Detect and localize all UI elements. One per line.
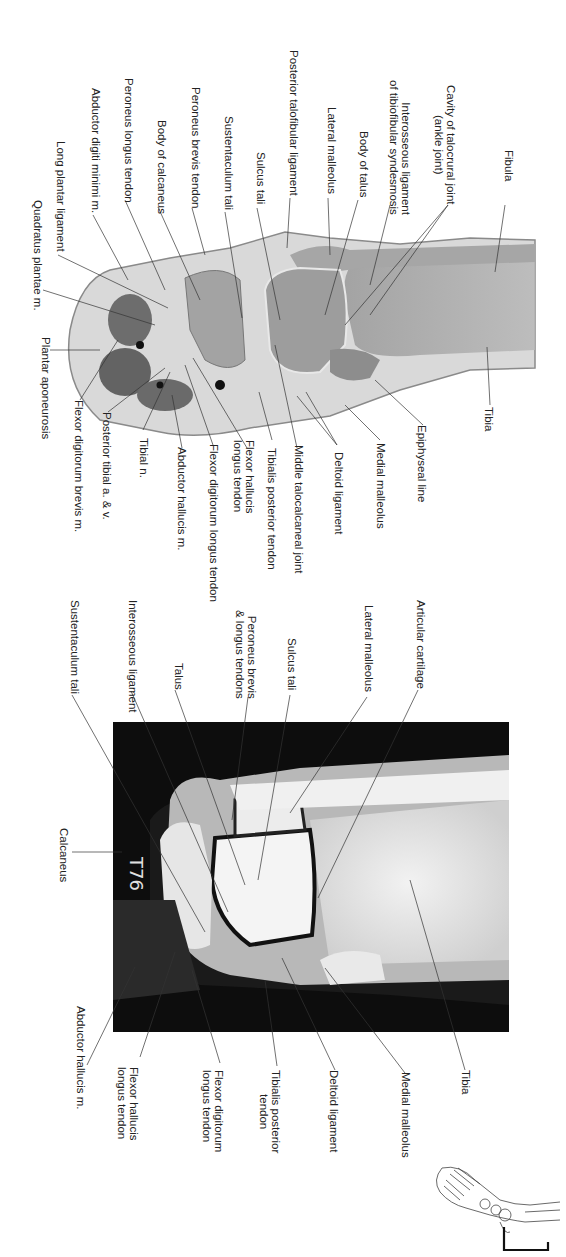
label-flexor-digitorum-brevis: Flexor digitorum brevis m. bbox=[73, 400, 85, 532]
label-lateral-malleolus-cadaver: Lateral malleolus bbox=[326, 107, 338, 194]
label-interosseous-ligament-mri: Interosseous ligament bbox=[127, 600, 139, 713]
label-deltoid-ligament-mri: Deltoid ligament bbox=[328, 1070, 340, 1152]
label-lateral-malleolus-mri: Lateral malleolus bbox=[363, 605, 375, 692]
label-flexor-hallucis-longus-mri: Flexor hallucis longus tendon bbox=[116, 1067, 140, 1141]
label-long-plantar-ligament: Long plantar ligament bbox=[55, 141, 67, 252]
label-medial-malleolus-cadaver: Medial malleolus bbox=[375, 443, 387, 529]
label-tibialis-posterior-cadaver: Tibialis posterior tendon bbox=[266, 448, 278, 570]
label-abductor-digiti-minimi: Abductor digiti minimi m. bbox=[90, 88, 102, 213]
label-abductor-hallucis-cadaver: Abductor hallucis m. bbox=[176, 447, 188, 551]
label-talus: Talus bbox=[173, 663, 185, 690]
label-cavity-of-talocrural-joint: Cavity of talocrural joint (ankle joint) bbox=[433, 85, 457, 205]
label-deltoid-ligament-cadaver: Deltoid ligament bbox=[333, 452, 345, 534]
label-tibia-cadaver: Tibia bbox=[483, 407, 495, 432]
label-peroneus-longus-tendon: Peroneus longus tendon bbox=[123, 78, 135, 203]
label-abductor-hallucis-mri: Abductor hallucis m. bbox=[75, 1006, 87, 1110]
label-body-of-calcaneus: Body of calcaneus bbox=[156, 120, 168, 214]
label-tibialis-posterior-mri: Tibialis posterior tendon bbox=[258, 1070, 282, 1153]
label-medial-malleolus-mri: Medial malleolus bbox=[400, 1072, 412, 1158]
label-flexor-digitorum-longus-mri: Flexor digitorum longus tendon bbox=[201, 1070, 225, 1152]
label-quadratus-plantae: Quadratus plantae m. bbox=[32, 200, 44, 311]
label-sulcus-tali-mri: Sulcus tali bbox=[286, 638, 298, 690]
label-tibia-mri: Tibia bbox=[460, 1070, 472, 1095]
label-posterior-talofibular-ligament: Posterior talofibular ligament bbox=[288, 50, 300, 196]
label-epiphyseal-line: Epiphyseal line bbox=[416, 425, 428, 502]
label-flexor-digitorum-longus-cadaver: Flexor digitorum longus tendon bbox=[208, 444, 220, 602]
label-sulcus-tali-cadaver: Sulcus tali bbox=[255, 152, 267, 204]
label-plantar-aponeurosis: Plantar aponeurosis bbox=[40, 337, 52, 439]
label-peroneus-brevis-tendon: Peroneus brevis tendon bbox=[190, 87, 202, 208]
label-peroneus-brevis-longus-tendons: Peroneus brevis & longus tendons bbox=[234, 610, 258, 699]
label-sustentaculum-tali-mri: Sustentaculum tali bbox=[69, 600, 81, 694]
label-fibula: Fibula bbox=[503, 150, 515, 181]
cadaver-section-image bbox=[69, 232, 535, 435]
label-calcaneus: Calcaneus bbox=[58, 828, 70, 882]
label-body-of-talus: Body of talus bbox=[358, 131, 370, 197]
svg-text:T76: T76 bbox=[126, 856, 147, 891]
mri-section-image: T76 bbox=[113, 722, 509, 1032]
label-flexor-hallucis-longus-cadaver: Flexor hallucis longus tendon bbox=[232, 440, 256, 514]
label-middle-talocalcaneal-joint: Middle talocalcaneal joint bbox=[293, 445, 305, 574]
label-tibial-nerve: Tibial n. bbox=[138, 438, 150, 478]
label-posterior-tibial-av: Posterior tibial a. & v. bbox=[101, 412, 113, 520]
foot-skeleton-icon bbox=[430, 1160, 560, 1255]
label-sustentaculum-tali-cadaver: Sustentaculum tali bbox=[223, 116, 235, 210]
label-articular-cartilage: Articular cartilage bbox=[415, 600, 427, 689]
label-interosseous-ligament-tibiofibular: Interosseous ligament of tibiofibular sy… bbox=[388, 80, 412, 215]
